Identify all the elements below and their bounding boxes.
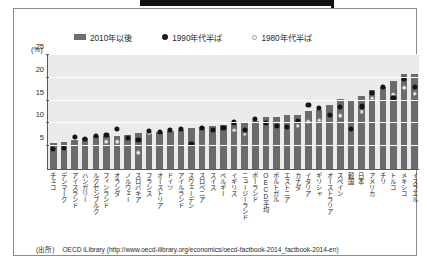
bar-slot <box>369 55 376 169</box>
bar-slot <box>220 55 227 169</box>
y-axis-tick-mark <box>46 122 49 123</box>
bar <box>82 138 89 169</box>
legend-item-1990: 1990年代半ば <box>162 31 222 43</box>
legend-label-1990: 1990年代半ば <box>172 31 222 43</box>
bar-slot <box>188 55 195 169</box>
x-axis-label: ニュージーランド <box>240 172 247 220</box>
x-axis-label: フランス <box>145 172 152 196</box>
gridline <box>48 77 419 78</box>
x-axis-label: ハンガリー <box>81 172 88 202</box>
bar-slot <box>273 55 280 169</box>
data-point-1980s <box>412 91 417 96</box>
bar-slot <box>241 55 248 169</box>
x-axis-label: スイス <box>208 172 215 190</box>
y-axis-tick-label: 25 <box>28 42 44 51</box>
bar-slot <box>124 55 131 169</box>
plot-area: 510152025 <box>47 55 419 170</box>
bar-slot <box>167 55 174 169</box>
gridline <box>48 100 419 101</box>
gridline <box>48 145 419 146</box>
x-axis-label: トルコ <box>389 172 396 190</box>
bar <box>188 128 195 169</box>
data-point-1980s <box>402 86 407 91</box>
x-axis-label: ベルギー <box>219 172 226 196</box>
bar-slot <box>337 55 344 169</box>
data-point-1980s <box>232 128 237 133</box>
gridline <box>48 122 419 123</box>
bar-series-layer <box>48 55 419 169</box>
bar-slot <box>199 55 206 169</box>
x-axis-label: フィンランド <box>102 172 109 208</box>
legend-label-1980: 1980年代半ば <box>261 31 311 43</box>
data-point-1980s <box>295 123 300 128</box>
x-axis-label: ルクセンブルク <box>91 172 98 214</box>
source-note: (出所)OECD iLibrary (http://www.oecd-ilibr… <box>36 244 339 254</box>
x-axis-label: アメリカ <box>368 172 375 196</box>
bar-slot <box>156 55 163 169</box>
data-point-1980s <box>104 139 109 144</box>
bar-slot <box>50 55 57 169</box>
data-point-1990s <box>114 126 119 131</box>
x-axis-label: カナダ <box>293 172 300 190</box>
bar <box>93 136 100 169</box>
bar-slot <box>114 55 121 169</box>
y-axis-tick-mark <box>46 54 49 55</box>
bar-slot <box>380 55 387 169</box>
bar <box>178 130 185 169</box>
bar-slot <box>146 55 153 169</box>
bar-slot <box>93 55 100 169</box>
data-point-1980s <box>136 151 141 156</box>
bar-slot <box>103 55 110 169</box>
x-axis-label: スウェーデン <box>187 172 194 208</box>
x-axis-label: アイルランド <box>176 172 183 208</box>
bar <box>71 140 78 169</box>
data-point-1980s <box>338 113 343 118</box>
x-axis-label: デンマーク <box>59 172 66 202</box>
x-axis-label: エストニア <box>283 172 290 202</box>
bar-slot <box>305 55 312 169</box>
chart-legend: 2010年以後 1990年代半ば 1980年代半ば <box>74 30 374 44</box>
data-point-1990s <box>306 103 311 108</box>
x-axis-label: チェコ <box>49 172 56 190</box>
y-axis-tick-label: 15 <box>28 87 44 96</box>
gridline <box>48 54 419 55</box>
page-root: 2010年以後 1990年代半ば 1980年代半ば (%) 510152025 … <box>0 0 427 271</box>
source-text: OECD iLibrary (http://www.oecd-ilibrary.… <box>62 246 338 253</box>
bar-slot <box>326 55 333 169</box>
x-axis-label: オランダ <box>113 172 120 196</box>
x-axis-labels: チェコデンマークアイスランドハンガリールクセンブルクフィンランドオランダノルウェ… <box>47 172 419 230</box>
y-axis-tick-mark <box>46 77 49 78</box>
x-axis-label: チリ <box>378 172 385 184</box>
bar-slot <box>284 55 291 169</box>
bar-slot <box>209 55 216 169</box>
x-axis-label: メキシコ <box>400 172 407 196</box>
y-axis-tick-mark <box>46 100 49 101</box>
chart-frame: 2010年以後 1990年代半ば 1980年代半ば (%) 510152025 … <box>13 8 417 256</box>
bar-slot <box>178 55 185 169</box>
open-dot-icon <box>252 35 257 40</box>
x-axis-label: 韓国 <box>346 172 353 184</box>
bar-slot <box>263 55 270 169</box>
bar-slot <box>390 55 397 169</box>
bar-slot <box>348 55 355 169</box>
data-point-1980s <box>242 132 247 137</box>
x-axis-label: ノルウェー <box>123 172 130 202</box>
y-axis-tick-label: 10 <box>28 110 44 119</box>
bar-slot <box>61 55 68 169</box>
x-axis-label: OECD平均 <box>261 172 268 212</box>
y-axis-tick-label: 20 <box>28 64 44 73</box>
x-axis-label: ポルトガル <box>272 172 279 202</box>
bar <box>220 125 227 169</box>
x-axis-label: 日本 <box>357 172 364 184</box>
x-axis-label: スロベニア <box>198 172 205 202</box>
data-point-1980s <box>359 110 364 115</box>
x-axis-label: イスラエル <box>410 172 417 202</box>
y-axis-tick-label: 5 <box>28 133 44 142</box>
bar <box>146 133 153 169</box>
bar-slot <box>252 55 259 169</box>
x-axis-label: イギリス <box>230 172 237 196</box>
bar-slot <box>401 55 408 169</box>
legend-item-2010: 2010年以後 <box>74 31 132 43</box>
bar-slot <box>82 55 89 169</box>
bar-slot <box>71 55 78 169</box>
